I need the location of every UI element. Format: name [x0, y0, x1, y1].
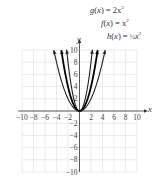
svg-text:6: 6 — [112, 113, 116, 122]
label-f: f(x) = x2 — [101, 18, 129, 27]
svg-text:−4: −4 — [70, 131, 78, 140]
svg-text:4: 4 — [101, 113, 105, 122]
svg-text:−8: −8 — [70, 155, 78, 164]
svg-text:2: 2 — [74, 94, 78, 103]
svg-text:−10: −10 — [66, 168, 78, 177]
label-h: h(x) = ½x2 — [107, 31, 141, 41]
svg-text:−2: −2 — [70, 119, 78, 128]
svg-text:−6: −6 — [70, 143, 78, 152]
svg-text:6: 6 — [74, 70, 78, 79]
svg-text:−8: −8 — [30, 113, 38, 122]
svg-text:10: 10 — [133, 113, 141, 122]
svg-text:−6: −6 — [41, 113, 49, 122]
y-axis-label: y — [77, 35, 81, 44]
svg-text:10: 10 — [70, 46, 78, 55]
x-axis-label: x — [148, 105, 152, 114]
parabola-chart: −10−8−6−4−2246810−10−8−6−4−2246810 — [0, 0, 159, 184]
svg-text:−4: −4 — [53, 113, 61, 122]
svg-text:8: 8 — [124, 113, 128, 122]
svg-text:8: 8 — [74, 58, 78, 67]
label-g: g(x) = 2x2 — [90, 5, 124, 14]
svg-text:4: 4 — [74, 82, 78, 91]
svg-text:−10: −10 — [16, 113, 28, 122]
svg-text:2: 2 — [89, 113, 93, 122]
